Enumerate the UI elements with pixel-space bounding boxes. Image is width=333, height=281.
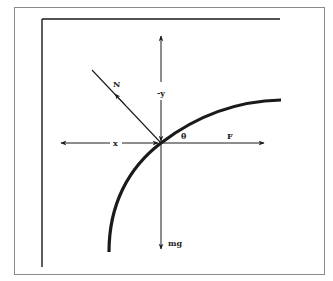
x-axis-label: x [113, 138, 118, 148]
normal-force-line [92, 70, 161, 143]
force-f-label: F [227, 131, 233, 141]
free-body-diagram: N -y x θ F mg [0, 0, 333, 281]
normal-force-label: N [113, 79, 120, 89]
outer-frame [15, 8, 325, 275]
weight-label: mg [168, 238, 182, 248]
negative-y-label: -y [157, 88, 165, 98]
curved-surface [109, 100, 281, 252]
angle-theta-label: θ [181, 131, 187, 141]
normal-force-arrow [115, 94, 125, 105]
